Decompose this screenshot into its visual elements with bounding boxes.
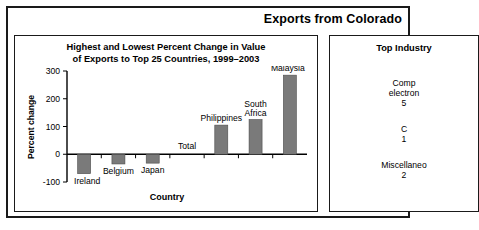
bar [249, 120, 262, 155]
industry-entry: C1 [330, 124, 478, 144]
chart-title: Highest and Lowest Percent Change in Val… [15, 42, 317, 65]
industry-panel: Top Industry Compelectron5C1Miscellaneo2 [329, 35, 479, 212]
page-title: Exports from Colorado [8, 12, 402, 26]
y-tick-label: -100 [43, 177, 60, 187]
page-header: Exports from Colorado [8, 12, 408, 32]
chart-title-line-2: of Exports to Top 25 Countries, 1999–200… [15, 54, 317, 66]
industry-entry-line: 1 [330, 134, 478, 144]
industry-entry: Compelectron5 [330, 78, 478, 108]
bar-category-label: Malaysia [271, 66, 305, 73]
y-tick-label: 200 [46, 94, 61, 104]
bar-chart-svg: -1000100200300IrelandBelgiumJapanTotalPh… [15, 66, 319, 191]
bar-category-label: Philippines [200, 113, 242, 123]
y-tick-label: 300 [46, 66, 61, 76]
x-axis-title: Country [15, 192, 319, 202]
bar [112, 154, 125, 164]
panels-row: Highest and Lowest Percent Change in Val… [14, 35, 408, 210]
industry-entry: Miscellaneo2 [330, 160, 478, 180]
page-frame: Exports from Colorado Highest and Lowest… [6, 6, 410, 218]
industry-entry-line: electron [330, 88, 478, 98]
bar-category-label: Japan [141, 165, 165, 175]
bar [78, 154, 91, 173]
bar-category-label: Belgium [103, 166, 134, 176]
industry-entry-line: 2 [330, 170, 478, 180]
y-tick-label: 0 [55, 149, 60, 159]
bar [283, 75, 296, 154]
plot-area: Percent change -1000100200300IrelandBelg… [15, 66, 319, 213]
bar [215, 125, 228, 154]
industry-entry-line: Comp [330, 78, 478, 88]
y-tick-label: 100 [46, 122, 61, 132]
chart-title-line-1: Highest and Lowest Percent Change in Val… [15, 42, 317, 54]
industry-entry-line: Miscellaneo [330, 160, 478, 170]
bar-category-label: Ireland [74, 176, 100, 186]
chart-panel: Highest and Lowest Percent Change in Val… [14, 35, 318, 212]
bar-category-label: Total [178, 141, 196, 151]
industry-entries: Compelectron5C1Miscellaneo2 [330, 78, 478, 196]
industry-panel-title: Top Industry [330, 43, 478, 53]
industry-entry-line: 5 [330, 98, 478, 108]
bar-category-label: Africa [245, 108, 267, 118]
bar [146, 154, 159, 163]
industry-entry-line: C [330, 124, 478, 134]
